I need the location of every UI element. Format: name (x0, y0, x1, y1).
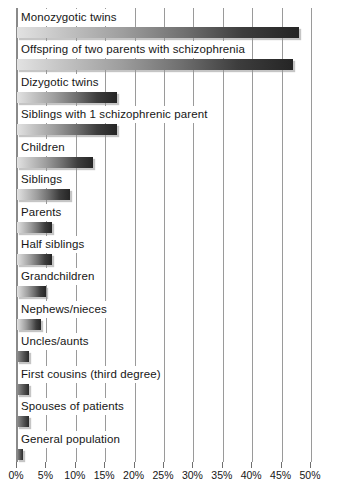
bar-rows: Monozygotic twinsOffspring of two parent… (17, 8, 311, 462)
bar-row: Siblings (17, 170, 311, 205)
bar-track (17, 319, 311, 332)
bar-track (17, 92, 311, 105)
bar-label: First cousins (third degree) (19, 366, 164, 383)
axis-tick-label: 15% (94, 469, 115, 481)
bar-label: Parents (19, 204, 64, 221)
axis-tick (281, 462, 282, 468)
bar-row: Spouses of patients (17, 397, 311, 432)
gridline-50pct (311, 8, 312, 462)
bar-row: Half siblings (17, 235, 311, 270)
axis-tick (251, 462, 252, 468)
bar (17, 286, 46, 297)
bar (17, 351, 29, 362)
bar-label: Grandchildren (19, 268, 98, 285)
bar-label: Siblings with 1 schizophrenic parent (19, 106, 210, 123)
bar-label: General population (19, 431, 123, 448)
axis-tick-label: 10% (64, 469, 85, 481)
bar-track (17, 384, 311, 397)
axis-tick (310, 462, 311, 468)
bar-row: Parents (17, 203, 311, 238)
bar-label: Dizygotic twins (19, 74, 102, 91)
bar-track (17, 416, 311, 429)
axis-tick (192, 462, 193, 468)
bar-label: Nephews/nieces (19, 301, 110, 318)
axis-tick-label: 30% (182, 469, 203, 481)
plot-area: Monozygotic twinsOffspring of two parent… (16, 8, 311, 462)
bar-label: Children (19, 139, 68, 156)
axis-tick (222, 462, 223, 468)
bar-track (17, 189, 311, 202)
bar-label: Monozygotic twins (19, 9, 120, 26)
bar (17, 254, 52, 265)
bar-track (17, 157, 311, 170)
bar-row: Nephews/nieces (17, 300, 311, 335)
axis-tick-label: 45% (270, 469, 291, 481)
axis-tick-label: 20% (123, 469, 144, 481)
bar-track (17, 351, 311, 364)
axis-tick-label: 35% (211, 469, 232, 481)
bar-row: Dizygotic twins (17, 73, 311, 108)
bar-row: Offspring of two parents with schizophre… (17, 40, 311, 75)
bar-row: General population (17, 430, 311, 465)
bar (17, 59, 293, 70)
bar (17, 124, 117, 135)
bar (17, 222, 52, 233)
bar-row: First cousins (third degree) (17, 365, 311, 400)
axis-tick (16, 462, 17, 468)
axis-tick (45, 462, 46, 468)
bar (17, 157, 93, 168)
bar-label: Siblings (19, 171, 65, 188)
axis-tick (75, 462, 76, 468)
bar (17, 319, 41, 330)
bar-track (17, 27, 311, 40)
bar-label: Half siblings (19, 236, 87, 253)
axis-tick (134, 462, 135, 468)
bar (17, 27, 299, 38)
bar-track (17, 449, 311, 462)
axis-tick (163, 462, 164, 468)
bar-row: Uncles/aunts (17, 332, 311, 367)
bar (17, 449, 23, 460)
bar (17, 384, 29, 395)
bar-track (17, 222, 311, 235)
axis-tick-label: 25% (152, 469, 173, 481)
bar (17, 416, 29, 427)
axis-tick (104, 462, 105, 468)
bar (17, 189, 70, 200)
axis-tick-label: 5% (38, 469, 53, 481)
bar-row: Children (17, 138, 311, 173)
bar-track (17, 254, 311, 267)
bar-row: Monozygotic twins (17, 8, 311, 43)
x-axis: 0%5%10%15%20%25%30%35%40%45%50% (16, 462, 310, 492)
bar-label: Spouses of patients (19, 398, 127, 415)
bar-label: Uncles/aunts (19, 333, 92, 350)
axis-tick-label: 40% (241, 469, 262, 481)
bar (17, 92, 117, 103)
bar-row: Siblings with 1 schizophrenic parent (17, 105, 311, 140)
bar-row: Grandchildren (17, 267, 311, 302)
bar-track (17, 124, 311, 137)
axis-tick-label: 50% (299, 469, 320, 481)
risk-bar-chart: Monozygotic twinsOffspring of two parent… (0, 0, 337, 498)
axis-tick-label: 0% (8, 469, 23, 481)
bar-track (17, 59, 311, 72)
bar-label: Offspring of two parents with schizophre… (19, 41, 248, 58)
bar-track (17, 286, 311, 299)
